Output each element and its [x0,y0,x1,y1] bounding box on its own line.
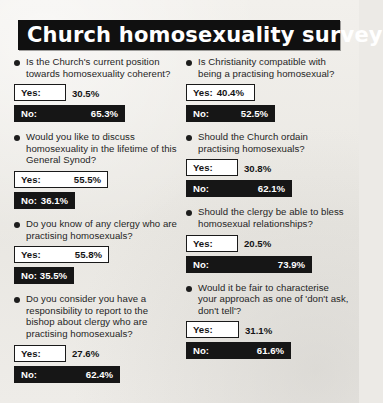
bar-yes-label: Yes: [187,162,213,173]
title-banner: Church homosexuality survey [18,20,340,50]
bar-no-value: 73.9% [278,259,311,270]
bar-no-value: 62.1% [258,183,291,194]
question-block: Should the clergy be able to bless homos… [186,206,349,272]
bar-no-value: 62.4% [86,369,119,380]
bar-yes-value: 55.5% [74,174,107,185]
question-row: Would you like to discuss homosexuality … [14,131,177,166]
bullet-icon [186,60,192,66]
question-text: Do you know of any clergy who are practi… [26,218,177,241]
bar-no: No:52.5% [186,105,275,122]
question-row: Is Christianity compatible with being a … [186,56,349,79]
bar-yes: Yes:40.4% [186,84,255,101]
bar-yes-label: Yes: [15,249,41,260]
bar-no-label: No: [187,345,209,356]
bar-no-label: No: [15,369,37,380]
bar-no-value: 35.5% [40,270,73,281]
question-block: Would it be fair to characterise your ap… [186,282,349,360]
question-block: Is the Church's current position towards… [14,56,177,122]
bar-yes: Yes:27.6% [14,345,66,362]
bar-yes: Yes:55.8% [14,246,109,263]
question-row: Do you consider you have a responsibilit… [14,293,177,339]
question-column-right: Is Christianity compatible with being a … [186,56,349,368]
bar-no-label: No: [187,108,209,119]
question-block: Should the Church ordain practising homo… [186,131,349,197]
bar-yes-label: Yes: [15,348,41,359]
bar-yes: Yes:30.8% [186,159,238,176]
bar-yes-value: 31.1% [245,324,272,335]
question-text: Is the Church's current position towards… [26,56,177,79]
question-row: Is the Church's current position towards… [14,56,177,79]
bar-yes-label: Yes: [187,87,213,98]
bar-no-label: No: [187,259,209,270]
bar-yes-value: 30.8% [244,162,271,173]
bar-yes-label: Yes: [15,174,41,185]
bar-yes-value: 40.4% [213,87,244,98]
question-column-left: Is the Church's current position towards… [14,56,177,392]
question-text: Should the Church ordain practising homo… [198,131,349,154]
bar-no-label: No: [15,108,37,119]
bar-no-value: 65.3% [91,108,124,119]
bullet-icon [14,135,20,141]
bar-no: No:35.5% [14,267,74,284]
bar-no-label: No: [15,195,37,206]
bullet-icon [14,60,20,66]
question-block: Do you know of any clergy who are practi… [14,218,177,284]
bar-no: No:65.3% [14,105,125,122]
question-row: Should the Church ordain practising homo… [186,131,349,154]
bar-yes: Yes:20.5% [186,235,238,252]
bullet-icon [186,135,192,141]
bar-yes: Yes:55.5% [14,171,108,188]
question-text: Should the clergy be able to bless homos… [198,206,349,229]
bullet-icon [186,286,192,292]
bar-no: No:62.1% [186,180,292,197]
question-row: Should the clergy be able to bless homos… [186,206,349,229]
bar-yes-label: Yes: [187,238,213,249]
question-text: Is Christianity compatible with being a … [198,56,349,79]
bar-yes-label: Yes: [15,87,41,98]
bullet-icon [186,210,192,216]
question-block: Is Christianity compatible with being a … [186,56,349,122]
bullet-icon [14,297,20,303]
question-block: Do you consider you have a responsibilit… [14,293,177,382]
question-text: Would you like to discuss homosexuality … [26,131,177,166]
bar-no: No:73.9% [186,256,312,273]
bar-yes-value: 30.5% [72,87,99,98]
bar-yes: Yes:31.1% [186,321,239,338]
bullet-icon [14,222,20,228]
bar-no: No:61.6% [186,342,291,359]
bar-yes-label: Yes: [187,324,213,335]
question-block: Would you like to discuss homosexuality … [14,131,177,209]
bar-yes: Yes:30.5% [14,84,66,101]
bar-yes-value: 27.6% [72,348,99,359]
bar-no-value: 36.1% [41,195,74,206]
bar-yes-value: 55.8% [75,249,108,260]
page-title: Church homosexuality survey [18,23,383,47]
bar-no-label: No: [187,183,209,194]
question-text: Do you consider you have a responsibilit… [26,293,177,339]
bar-no-label: No: [15,270,37,281]
question-text: Would it be fair to characterise your ap… [198,282,349,317]
bar-no-value: 52.5% [241,108,274,119]
bar-yes-value: 20.5% [244,238,271,249]
bar-no: No:62.4% [14,366,120,383]
bar-no: No:36.1% [14,192,75,209]
bar-no-value: 61.6% [257,345,290,356]
question-row: Would it be fair to characterise your ap… [186,282,349,317]
question-row: Do you know of any clergy who are practi… [14,218,177,241]
